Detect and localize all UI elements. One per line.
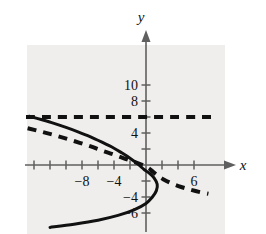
y-tick-label: 10	[124, 78, 138, 93]
y-tick-label: −4	[123, 190, 138, 205]
x-axis-label: x	[239, 157, 247, 173]
x-tick-label: −8	[75, 174, 90, 189]
y-tick-label: 4	[131, 126, 138, 141]
y-axis-label: y	[136, 9, 145, 25]
x-tick-label: 6	[191, 174, 198, 189]
x-axis-arrowhead	[224, 161, 236, 170]
x-tick-label: −4	[107, 174, 122, 189]
math-figure-container: 4810−4−66−8−4 y x	[0, 0, 266, 234]
coordinate-plane-graph: 4810−4−66−8−4 y x	[0, 0, 266, 234]
y-axis-arrowhead	[142, 30, 151, 42]
y-tick-label: 8	[131, 94, 138, 109]
